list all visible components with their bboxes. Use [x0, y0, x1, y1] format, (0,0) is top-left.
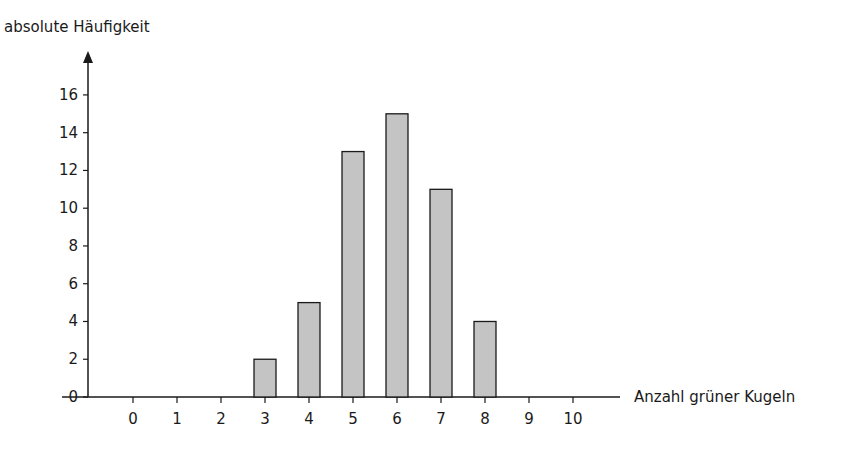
x-tick-label: 8	[480, 410, 490, 428]
bar	[298, 303, 320, 397]
y-tick-label: 12	[59, 161, 78, 179]
x-tick-label: 1	[172, 410, 182, 428]
y-tick-label: 8	[68, 237, 78, 255]
bar	[430, 189, 452, 397]
x-axis-label: Anzahl grüner Kugeln	[634, 388, 795, 406]
x-axis: 012345678910	[62, 397, 620, 428]
bar	[386, 114, 408, 397]
x-tick-label: 4	[304, 410, 314, 428]
x-tick-label: 3	[260, 410, 270, 428]
bar	[342, 152, 364, 397]
x-tick-label: 7	[436, 410, 446, 428]
bar	[474, 321, 496, 397]
y-tick-label: 4	[68, 312, 78, 330]
y-tick-label: 10	[59, 199, 78, 217]
y-axis-arrow-icon	[83, 51, 93, 63]
y-axis: 0246810121416	[59, 51, 93, 406]
x-tick-label: 0	[128, 410, 138, 428]
y-tick-label: 2	[68, 350, 78, 368]
x-tick-label: 2	[216, 410, 226, 428]
x-tick-label: 9	[524, 410, 534, 428]
x-tick-label: 6	[392, 410, 402, 428]
bar	[254, 359, 276, 397]
y-tick-label: 14	[59, 124, 78, 142]
y-tick-label: 16	[59, 86, 78, 104]
y-axis-label: absolute Häufigkeit	[4, 18, 150, 36]
x-tick-label: 10	[563, 410, 582, 428]
bars	[254, 114, 496, 397]
x-tick-label: 5	[348, 410, 358, 428]
y-tick-label: 6	[68, 275, 78, 293]
bar-chart: absolute Häufigkeit Anzahl grüner Kugeln…	[0, 0, 854, 449]
